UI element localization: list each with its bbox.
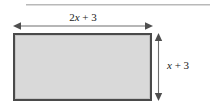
- geometry-figure: 2x + 3 x + 3: [0, 0, 210, 107]
- width-arrowhead-left: [13, 22, 21, 30]
- rectangle-shape: [13, 33, 152, 101]
- width-dimension-arrow: [10, 19, 156, 33]
- height-dimension-label: x + 3: [167, 59, 189, 71]
- height-arrowhead-bottom: [155, 93, 162, 101]
- height-variable: x: [167, 59, 172, 71]
- height-operator: +: [175, 59, 181, 71]
- page-rule-line-shadow: [26, 5, 210, 6]
- height-constant: 3: [184, 59, 190, 71]
- height-dimension-arrow: [151, 29, 167, 105]
- height-arrowhead-top: [155, 33, 162, 41]
